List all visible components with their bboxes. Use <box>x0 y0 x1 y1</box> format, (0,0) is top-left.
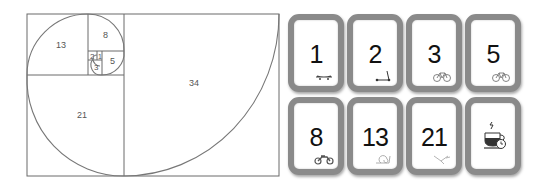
square-label-8: 8 <box>103 30 108 40</box>
square-label-21: 21 <box>77 110 87 120</box>
golden-spiral-curve <box>27 14 279 176</box>
square-label-34: 34 <box>189 78 199 88</box>
bird-icon <box>432 153 452 165</box>
card-13[interactable]: 13 <box>347 97 403 175</box>
card-2[interactable]: 2 <box>347 14 403 92</box>
card-value: 21 <box>412 123 456 152</box>
fibonacci-spiral-diagram: 34 21 13 8 5 3 2 1 <box>0 0 290 193</box>
square-label-2: 2 <box>90 52 95 61</box>
square-label-5: 5 <box>110 56 115 66</box>
bicycle-icon <box>432 70 452 82</box>
scooter-icon <box>373 70 393 82</box>
card-21[interactable]: 21 <box>406 97 462 175</box>
skateboard-icon <box>314 70 334 82</box>
card-value: 2 <box>353 40 397 69</box>
coffee-break-icon <box>483 119 507 155</box>
card-8[interactable]: 8 <box>288 97 344 175</box>
square-label-13: 13 <box>56 40 66 50</box>
motorcycle-icon <box>314 153 334 165</box>
card-value: 13 <box>353 123 397 152</box>
card-value: 8 <box>294 123 338 152</box>
snail-icon <box>373 153 393 165</box>
outer-rectangle <box>27 14 279 176</box>
card-value: 1 <box>294 40 338 69</box>
card-1[interactable]: 1 <box>288 14 344 92</box>
planning-poker-cards: 1 2 3 5 8 <box>288 14 528 176</box>
bicycle-icon <box>491 70 511 82</box>
card-5[interactable]: 5 <box>465 14 521 92</box>
square-label-3: 3 <box>94 63 99 72</box>
card-value: 5 <box>471 40 515 69</box>
square-label-1: 1 <box>98 53 102 60</box>
card-3[interactable]: 3 <box>406 14 462 92</box>
card-coffee-break[interactable] <box>465 97 521 175</box>
card-value: 3 <box>412 40 456 69</box>
